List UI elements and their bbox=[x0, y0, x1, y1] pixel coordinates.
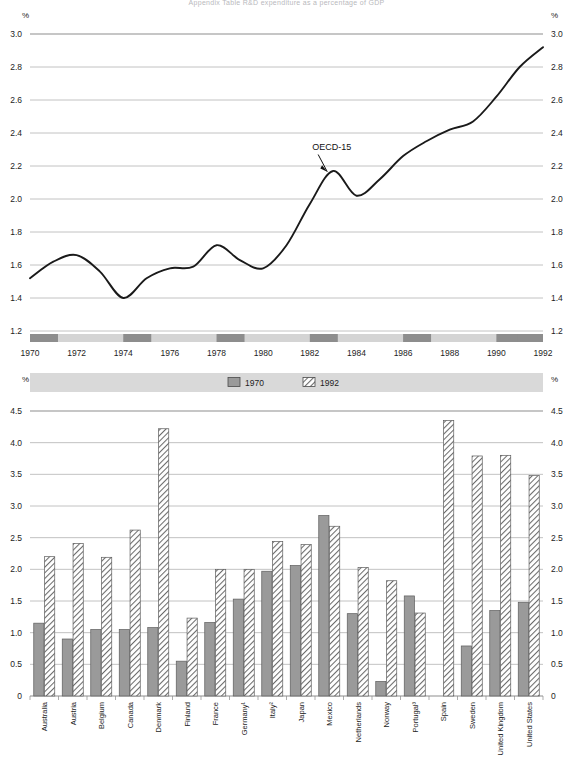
x-axis-tick: 1976 bbox=[160, 348, 179, 358]
category-label: Norway bbox=[382, 702, 391, 728]
y-axis-tick-right: 2.0 bbox=[551, 564, 563, 574]
bar-1992 bbox=[330, 526, 340, 696]
unit-left: % bbox=[22, 375, 29, 384]
y-axis-tick-right: 1.2 bbox=[551, 326, 563, 336]
y-axis-tick: 1.4 bbox=[10, 293, 22, 303]
bar-1992 bbox=[187, 618, 197, 696]
bar-1970 bbox=[62, 639, 72, 696]
y-axis-tick: 3.0 bbox=[10, 29, 22, 39]
y-axis-tick-right: 2.5 bbox=[551, 533, 563, 543]
x-axis-tick: 1972 bbox=[67, 348, 86, 358]
unit-left: % bbox=[22, 11, 29, 20]
bar-chart-svg: 19701992%%4.54.54.04.03.53.53.03.02.52.5… bbox=[0, 368, 573, 770]
data-line-oecd15 bbox=[30, 47, 543, 298]
figure-root: Appendix Table R&D expenditure as a perc… bbox=[0, 0, 573, 770]
y-axis-tick-right: 3.0 bbox=[551, 29, 563, 39]
x-axis-band-dark bbox=[403, 334, 431, 342]
bar-1970 bbox=[176, 661, 186, 696]
x-axis-tick: 1974 bbox=[114, 348, 133, 358]
bar-1970 bbox=[461, 646, 471, 696]
bar-1992 bbox=[159, 429, 169, 696]
legend-swatch-1970 bbox=[228, 378, 240, 387]
bar-1970 bbox=[34, 623, 44, 696]
y-axis-tick-right: 2.0 bbox=[551, 194, 563, 204]
category-label: United Kingdom bbox=[496, 702, 505, 755]
figure-title: Appendix Table R&D expenditure as a perc… bbox=[0, 0, 573, 6]
bar-1992 bbox=[216, 569, 226, 696]
x-axis-band-dark bbox=[517, 334, 543, 342]
category-label: France bbox=[211, 702, 220, 725]
x-axis-band-dark bbox=[217, 334, 245, 342]
y-axis-tick: 2.0 bbox=[10, 194, 22, 204]
category-label: Netherlands bbox=[354, 702, 363, 743]
bar-1970 bbox=[290, 566, 300, 696]
bar-1970 bbox=[91, 630, 101, 697]
y-axis-tick: 1.2 bbox=[10, 326, 22, 336]
y-axis-tick-right: 2.8 bbox=[551, 62, 563, 72]
y-axis-tick-right: 2.2 bbox=[551, 161, 563, 171]
y-axis-tick: 2.5 bbox=[10, 533, 22, 543]
y-axis-tick: 3.5 bbox=[10, 469, 22, 479]
category-label: Japan bbox=[297, 702, 306, 722]
legend-label-1970: 1970 bbox=[245, 378, 264, 388]
y-axis-tick: 3.0 bbox=[10, 501, 22, 511]
y-axis-tick-right: 2.4 bbox=[551, 128, 563, 138]
y-axis-tick-right: 4.5 bbox=[551, 406, 563, 416]
bar-1970 bbox=[490, 611, 500, 697]
category-label: Canada bbox=[126, 701, 135, 728]
unit-right: % bbox=[551, 375, 558, 384]
y-axis-tick-right: 1.4 bbox=[551, 293, 563, 303]
y-axis-tick-right: 1.5 bbox=[551, 596, 563, 606]
y-axis-tick: 1.0 bbox=[10, 628, 22, 638]
category-label: Mexico bbox=[325, 702, 334, 726]
y-axis-tick-right: 4.0 bbox=[551, 438, 563, 448]
y-axis-tick-right: 1.0 bbox=[551, 628, 563, 638]
y-axis-tick: 4.0 bbox=[10, 438, 22, 448]
bar-1970 bbox=[205, 623, 215, 696]
x-axis-tick: 1970 bbox=[21, 348, 40, 358]
bar-1992 bbox=[244, 569, 254, 696]
bar-1992 bbox=[45, 557, 55, 696]
bar-1970 bbox=[148, 628, 158, 696]
x-axis-band-dark bbox=[30, 334, 58, 342]
bar-1970 bbox=[347, 614, 357, 696]
bar-1992 bbox=[387, 581, 397, 696]
bar-1970 bbox=[262, 571, 272, 696]
annotation-label: OECD-15 bbox=[312, 142, 351, 152]
bar-1992 bbox=[472, 456, 482, 696]
y-axis-tick: 2.2 bbox=[10, 161, 22, 171]
bar-1970 bbox=[319, 516, 329, 697]
legend-swatch-1992 bbox=[303, 378, 315, 387]
x-axis-tick: 1984 bbox=[347, 348, 366, 358]
bar-1992 bbox=[102, 557, 112, 696]
category-label: Italy² bbox=[268, 702, 277, 719]
x-axis-tick: 1982 bbox=[300, 348, 319, 358]
x-axis-tick: 1986 bbox=[394, 348, 413, 358]
x-axis-tick: 1988 bbox=[440, 348, 459, 358]
bar-1992 bbox=[444, 421, 454, 697]
bar-1970 bbox=[518, 602, 528, 696]
y-axis-tick-right: 3.5 bbox=[551, 469, 563, 479]
x-axis-band-dark bbox=[123, 334, 151, 342]
y-axis-tick: 1.8 bbox=[10, 227, 22, 237]
x-axis-band-base bbox=[30, 334, 543, 342]
bar-1992 bbox=[358, 567, 368, 696]
bar-1992 bbox=[273, 541, 283, 696]
bar-1970 bbox=[404, 596, 414, 696]
y-axis-tick: 0.5 bbox=[10, 659, 22, 669]
legend-label-1992: 1992 bbox=[320, 378, 339, 388]
category-label: Belgium bbox=[97, 702, 106, 729]
y-axis-tick-right: 1.6 bbox=[551, 260, 563, 270]
y-axis-tick: 4.5 bbox=[10, 406, 22, 416]
y-axis-tick-right: 0 bbox=[551, 691, 556, 701]
y-axis-tick-right: 1.8 bbox=[551, 227, 563, 237]
y-axis-tick: 2.8 bbox=[10, 62, 22, 72]
bar-1992 bbox=[73, 543, 83, 696]
category-label: Austria bbox=[69, 701, 78, 725]
line-chart-svg: %%3.03.02.82.82.62.62.42.42.22.22.02.01.… bbox=[0, 0, 573, 365]
y-axis-tick: 2.6 bbox=[10, 95, 22, 105]
category-label: Sweden bbox=[468, 702, 477, 729]
bar-1992 bbox=[130, 530, 140, 696]
y-axis-tick-right: 0.5 bbox=[551, 659, 563, 669]
bar-1992 bbox=[415, 613, 425, 696]
